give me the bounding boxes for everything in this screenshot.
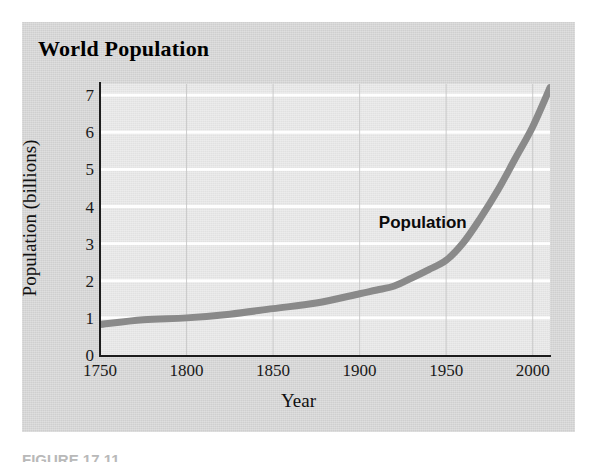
- horizontal-gridlines: [100, 94, 550, 320]
- plot-area: [100, 84, 550, 355]
- x-tick-label: 1750: [83, 362, 117, 379]
- x-tick-labels: 175018001850190019502000: [22, 362, 575, 386]
- y-tick-label: 6: [72, 124, 94, 141]
- x-tick-label: 2000: [516, 362, 550, 379]
- y-axis-line: [99, 82, 101, 357]
- figure-caption: FIGURE 17.11: [22, 452, 120, 462]
- chart-title: World Population: [38, 36, 209, 62]
- y-tick-label: 4: [72, 199, 94, 216]
- y-tick-label: 5: [72, 161, 94, 178]
- x-axis-line: [99, 355, 551, 357]
- y-tick-label: 2: [72, 273, 94, 290]
- plot-canvas: [100, 84, 550, 355]
- x-tick-label: 1950: [429, 362, 463, 379]
- y-tick-label: 1: [72, 310, 94, 327]
- x-axis-title: Year: [22, 390, 575, 412]
- figure-panel: World Population 01234567 17501800185019…: [22, 22, 575, 432]
- x-tick-label: 1800: [170, 362, 204, 379]
- x-tick-label: 1850: [256, 362, 290, 379]
- y-axis-title: Population (billions): [19, 140, 41, 297]
- x-tick-label: 1900: [343, 362, 377, 379]
- series-annotation-population: Population: [379, 213, 467, 233]
- y-tick-label: 3: [72, 236, 94, 253]
- y-tick-label: 7: [72, 87, 94, 104]
